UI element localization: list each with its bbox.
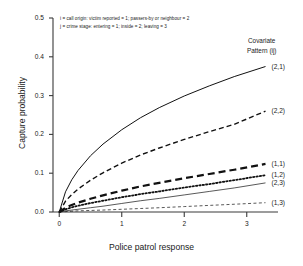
x-axis-ticks (59, 212, 247, 217)
annotation-line-i: i = call origin: victim reported = 1; pa… (60, 16, 189, 21)
y-tick-label: 0.2 (26, 130, 44, 137)
annotation-line-j: j = crime stage: entering = 1; inside = … (60, 24, 167, 29)
y-tick-label: 0.4 (26, 53, 44, 60)
x-tick-label: 3 (241, 220, 253, 227)
x-tick-label: 1 (116, 220, 128, 227)
series-label-22: (2,2) (272, 107, 286, 114)
chart-figure: i = call origin: victim reported = 1; pa… (0, 0, 303, 266)
series-label-11: (1,1) (272, 160, 286, 167)
x-tick-label: 2 (178, 220, 190, 227)
y-tick-label: 0.5 (26, 14, 44, 21)
series-curve-13 (59, 203, 265, 212)
y-tick-label: 0.0 (26, 208, 44, 215)
y-tick-label: 0.3 (26, 92, 44, 99)
legend-title-line-2: Pattern (ij) (247, 47, 276, 54)
x-tick-label: 0 (53, 220, 65, 227)
legend-title-line-1: Covariate (248, 37, 275, 44)
series-label-23: (2,3) (272, 179, 286, 186)
x-axis-label: Police patrol response (0, 242, 303, 252)
y-tick-label: 0.1 (26, 169, 44, 176)
series-curves (59, 67, 265, 213)
series-label-13: (1,3) (272, 199, 286, 206)
y-axis-ticks (49, 18, 53, 212)
series-curve-22 (59, 111, 265, 212)
series-label-12: (1,2) (272, 171, 286, 178)
y-axis-label: Capture probability (17, 43, 27, 183)
series-label-21: (2,1) (272, 63, 286, 70)
